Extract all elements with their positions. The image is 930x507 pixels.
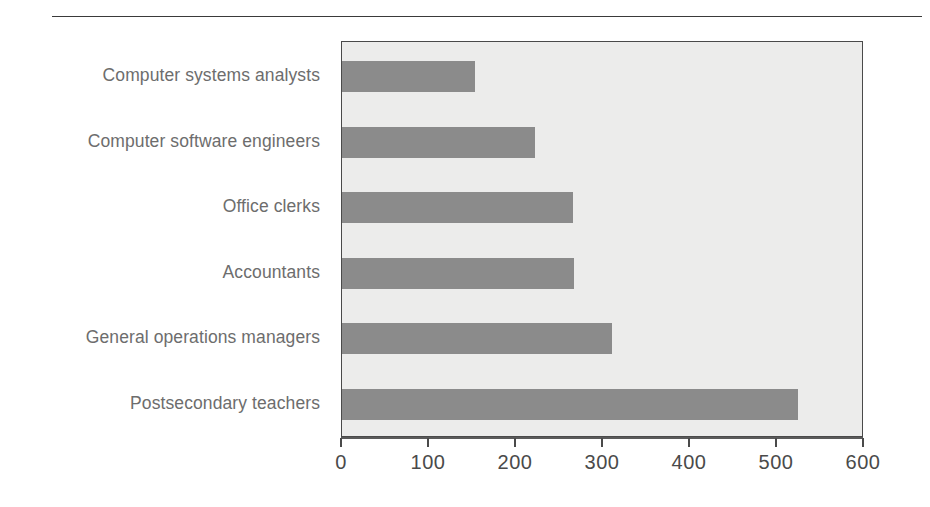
x-tick-label-400: 400	[672, 451, 707, 474]
x-tick-0	[340, 438, 341, 447]
bar-computer-software-engineers	[342, 127, 535, 158]
x-tick-500	[775, 438, 776, 447]
x-tick-600	[862, 438, 863, 447]
bar-general-operations-managers	[342, 323, 612, 354]
category-label-office-clerks: Office clerks	[223, 191, 320, 222]
x-tick-label-0: 0	[335, 451, 347, 474]
category-label-postsecondary-teachers: Postsecondary teachers	[130, 388, 320, 419]
x-tick-label-500: 500	[759, 451, 794, 474]
category-label-computer-software-engineers: Computer software engineers	[88, 126, 320, 157]
x-tick-label-200: 200	[498, 451, 533, 474]
bar-computer-systems-analysts	[342, 61, 475, 92]
x-tick-100	[427, 438, 428, 447]
x-tick-label-100: 100	[411, 451, 446, 474]
plot-area	[341, 41, 863, 437]
figure-canvas: Computer systems analystsComputer softwa…	[0, 0, 930, 507]
x-axis-ticks: 0100200300400500600	[341, 438, 863, 498]
bar-office-clerks	[342, 192, 573, 223]
category-axis-labels: Computer systems analystsComputer softwa…	[0, 41, 331, 437]
category-label-general-operations-managers: General operations managers	[86, 322, 320, 353]
x-tick-label-300: 300	[585, 451, 620, 474]
x-tick-400	[688, 438, 689, 447]
bar-accountants	[342, 258, 574, 289]
x-tick-label-600: 600	[846, 451, 881, 474]
category-label-accountants: Accountants	[223, 257, 320, 288]
x-tick-300	[601, 438, 602, 447]
x-tick-200	[514, 438, 515, 447]
category-label-computer-systems-analysts: Computer systems analysts	[103, 60, 320, 91]
top-rule-divider	[52, 16, 922, 17]
bar-postsecondary-teachers	[342, 389, 798, 420]
